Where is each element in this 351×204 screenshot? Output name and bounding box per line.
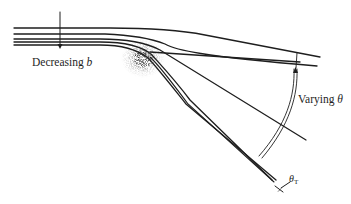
theta-t-label: θT xyxy=(289,174,298,186)
decreasing-b-var: b xyxy=(87,56,93,68)
varying-theta-label: Varying θ xyxy=(298,94,343,106)
decreasing-b-label: Decreasing b xyxy=(32,57,92,69)
arc-top-tick xyxy=(296,53,297,68)
varying-theta-arc-inner xyxy=(259,69,294,156)
theta-t-sub: T xyxy=(294,178,298,186)
varying-theta-arc-outer xyxy=(262,69,297,158)
varying-theta-prefix: Varying xyxy=(298,93,337,105)
decreasing-b-prefix: Decreasing xyxy=(32,56,87,68)
decreasing-b-arrowhead xyxy=(58,44,63,49)
varying-theta-var: θ xyxy=(337,93,343,105)
scattering-diagram: Decreasing b Varying θ θT xyxy=(0,0,351,204)
